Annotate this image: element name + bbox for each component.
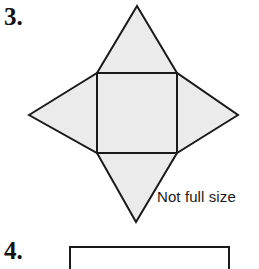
partial-rectangle-outline — [70, 247, 229, 269]
question-number-4: 4. — [4, 238, 23, 263]
right-triangle — [177, 73, 238, 153]
worksheet-page: 3. Not full size 4. — [0, 0, 259, 269]
figure-caption-not-full-size: Not full size — [157, 188, 236, 205]
figure-partial-rectangle — [60, 238, 259, 269]
left-triangle — [29, 73, 97, 153]
central-square — [97, 73, 177, 153]
top-triangle — [97, 6, 177, 73]
